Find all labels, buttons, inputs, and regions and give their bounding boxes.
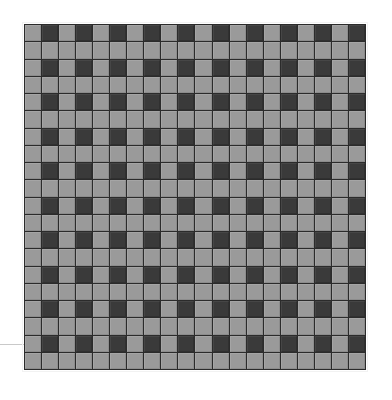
grid-cell [76, 77, 92, 93]
grid-cell [161, 146, 177, 162]
grid-cell [110, 232, 126, 248]
grid-cell [230, 232, 246, 248]
grid-cell [127, 129, 143, 145]
grid-cell [161, 42, 177, 58]
grid-cell [127, 111, 143, 127]
grid-cell [264, 215, 280, 231]
grid-cell [195, 215, 211, 231]
grid-cell [42, 249, 58, 265]
grid-cell [25, 129, 41, 145]
grid-cell [195, 232, 211, 248]
grid-cell [332, 42, 348, 58]
grid-cell [298, 146, 314, 162]
grid-cell [178, 111, 194, 127]
grid-cell [247, 301, 263, 317]
grid-cell [213, 180, 229, 196]
grid-cell [144, 318, 160, 334]
grid-cell [93, 301, 109, 317]
grid-cell [349, 77, 365, 93]
grid-cell [59, 318, 75, 334]
grid-cell [161, 301, 177, 317]
grid-cell [315, 94, 331, 110]
grid-cell [76, 163, 92, 179]
grid-cell [298, 336, 314, 352]
grid-cell [110, 77, 126, 93]
grid-cell [127, 180, 143, 196]
grid-cell [110, 163, 126, 179]
grid-cell [59, 267, 75, 283]
grid-cell [264, 318, 280, 334]
grid-cell [76, 180, 92, 196]
grid-cell [42, 301, 58, 317]
grid-cell [230, 163, 246, 179]
grid-cell [161, 267, 177, 283]
grid-cell [281, 25, 297, 41]
grid-cell [42, 215, 58, 231]
grid-cell [230, 77, 246, 93]
grid-cell [178, 318, 194, 334]
grid-cell [127, 267, 143, 283]
grid-cell [110, 60, 126, 76]
grid-cell [93, 77, 109, 93]
grid-cell [332, 146, 348, 162]
grid-cell [76, 215, 92, 231]
grid-cell [213, 232, 229, 248]
grid-cell [144, 163, 160, 179]
grid-cell [93, 353, 109, 369]
grid-cell [264, 163, 280, 179]
grid-cell [195, 77, 211, 93]
grid-cell [59, 163, 75, 179]
grid-cell [264, 94, 280, 110]
grid-cell [59, 94, 75, 110]
grid-cell [281, 42, 297, 58]
grid-cell [127, 284, 143, 300]
grid-cell [349, 42, 365, 58]
grid-cell [76, 129, 92, 145]
grid-cell [144, 284, 160, 300]
grid-cell [213, 301, 229, 317]
grid-cell [76, 25, 92, 41]
grid-cell [247, 353, 263, 369]
grid-cell [315, 25, 331, 41]
grid-cell [332, 111, 348, 127]
grid-cell [59, 180, 75, 196]
grid-cell [161, 25, 177, 41]
grid-cell [230, 284, 246, 300]
grid-cell [25, 42, 41, 58]
grid-cell [349, 301, 365, 317]
grid-cell [332, 249, 348, 265]
grid-cell [59, 111, 75, 127]
grid-cell [195, 284, 211, 300]
grid-cell [213, 284, 229, 300]
grid-cell [332, 215, 348, 231]
grid-cell [230, 301, 246, 317]
grid-cell [247, 232, 263, 248]
grid-cell [195, 249, 211, 265]
grid-cell [332, 163, 348, 179]
grid-cell [144, 267, 160, 283]
grid-cell [59, 42, 75, 58]
grid-cell [76, 111, 92, 127]
grid-cell [230, 42, 246, 58]
grid-cell [298, 111, 314, 127]
grid-cell [349, 232, 365, 248]
grid-cell [230, 129, 246, 145]
grid-cell [178, 146, 194, 162]
grid-cell [281, 301, 297, 317]
grid-cell [76, 318, 92, 334]
grid-cell [127, 301, 143, 317]
grid-cell [281, 111, 297, 127]
grid-cell [178, 336, 194, 352]
grid-cell [195, 180, 211, 196]
grid-cell [349, 129, 365, 145]
grid-cell [298, 249, 314, 265]
grid-cell [110, 42, 126, 58]
grid-cell [161, 249, 177, 265]
grid-cell [213, 94, 229, 110]
grid-cell [144, 111, 160, 127]
grid-cell [161, 129, 177, 145]
grid-cell [315, 146, 331, 162]
grid-cell [349, 94, 365, 110]
grid-cell [178, 60, 194, 76]
grid-cell [230, 94, 246, 110]
